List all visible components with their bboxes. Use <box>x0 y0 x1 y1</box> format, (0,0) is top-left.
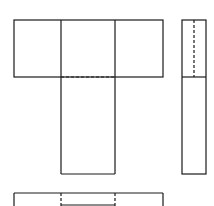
front-view <box>14 20 163 174</box>
front-crossbar <box>14 20 163 77</box>
three-view-drawing <box>0 0 214 206</box>
side-outline <box>182 20 206 174</box>
top-view <box>14 193 163 206</box>
side-view <box>182 20 206 174</box>
